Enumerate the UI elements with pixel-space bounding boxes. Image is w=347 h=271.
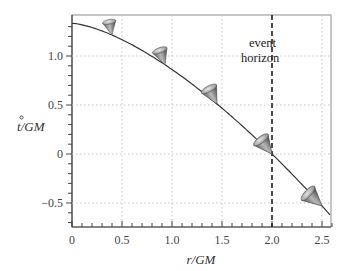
trajectory-curve (72, 23, 330, 215)
x-axis-label: r/GM (187, 252, 217, 267)
grid-lines (72, 15, 331, 227)
y-tick-label: −0.5 (41, 196, 63, 210)
x-tick-label: 2.0 (265, 233, 280, 247)
y-axis-label-rest: /GM (20, 119, 46, 134)
light-cone-icon (252, 132, 279, 160)
x-axis: 00.51.01.52.02.5 (69, 221, 332, 247)
x-tick-label: 0.5 (115, 233, 130, 247)
annotation-horizon: horizon (241, 51, 280, 65)
y-axis: −0.500.51.0 (41, 27, 72, 223)
y-tick-label: 1.0 (48, 49, 63, 63)
light-cone-icon (102, 18, 119, 36)
x-tick-label: 1.0 (165, 233, 180, 247)
light-cone-icon (200, 82, 225, 108)
y-tick-label: 0.5 (48, 98, 63, 112)
x-tick-label: 0 (69, 233, 75, 247)
y-tick-label: 0 (57, 147, 63, 161)
plot-frame (72, 15, 331, 227)
y-axis-label: t/GM (17, 116, 46, 134)
x-tick-label: 2.5 (315, 233, 330, 247)
svg-text:t/GM: t/GM (17, 119, 46, 134)
x-tick-label: 1.5 (215, 233, 230, 247)
chart: 00.51.01.52.02.5 −0.500.51.0 r/GM t/GM e… (0, 0, 347, 271)
annotation-event: event (249, 36, 277, 50)
plot-border (72, 15, 331, 227)
